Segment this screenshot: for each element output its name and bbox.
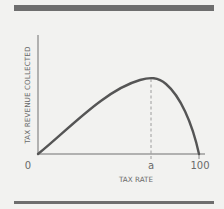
revenue-curve [38,78,199,154]
x-tick-zero: 0 [25,160,31,171]
x-tick-hundred: 100 [190,160,209,171]
y-axis-label: TAX REVENUE COLLECTED [23,46,32,143]
laffer-curve-plot [0,0,224,209]
bottom-rule [14,201,214,204]
x-axis-label: TAX RATE [119,175,153,184]
x-tick-a: a [148,160,154,171]
